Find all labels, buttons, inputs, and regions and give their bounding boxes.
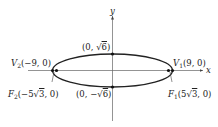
v2-coords: (−9, 0) — [21, 58, 51, 68]
label-top-covertex: (0, √6) — [82, 43, 110, 52]
ellipse-diagram: y x (0, √6) (0, −√6) V2(−9, 0) V1(9, 0) … — [0, 0, 218, 127]
covertex-top-point — [111, 52, 114, 55]
label-v1: V1(9, 0) — [173, 59, 206, 69]
label-v2: V2(−9, 0) — [11, 59, 51, 69]
label-f1: F1(5√3, 0) — [168, 90, 211, 100]
vertex-v1-point — [171, 69, 174, 72]
label-f2: F2(−5√3, 0) — [8, 90, 59, 100]
f2-pre: (−5 — [18, 89, 34, 99]
top-prefix: (0, — [82, 42, 96, 52]
f1-post: , 0) — [197, 89, 211, 99]
vertex-v2-point — [51, 69, 54, 72]
focus-f1-point — [167, 69, 170, 72]
bottom-suffix: ) — [108, 89, 111, 99]
y-axis-label: y — [110, 7, 115, 16]
f2-post: , 0) — [44, 89, 58, 99]
focus-f2-point — [55, 69, 58, 72]
label-bottom-covertex: (0, −√6) — [76, 90, 111, 99]
x-axis-label: x — [206, 66, 211, 75]
f1-pre: (5 — [178, 89, 187, 99]
top-suffix: ) — [107, 42, 110, 52]
bottom-sign: − — [90, 89, 97, 99]
v1-coords: (9, 0) — [183, 58, 206, 68]
bottom-prefix: (0, — [76, 89, 90, 99]
